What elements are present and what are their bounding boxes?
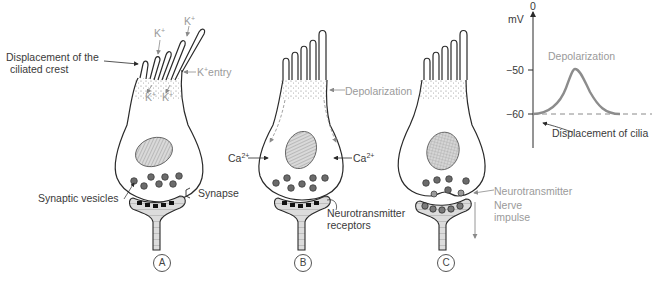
label-receptors-line2: receptors	[327, 219, 371, 231]
label-neurotransmitter: Neurotransmitter	[494, 185, 572, 197]
hair-cell-diagram	[0, 0, 660, 283]
label-k-entry: K+entry	[197, 66, 231, 78]
panel-a-hair-cell	[104, 26, 205, 250]
label-k-inside-1: K+	[145, 91, 156, 103]
panel-marker-a: A	[153, 254, 171, 272]
label-synapse: Synapse	[198, 187, 239, 199]
label-displacement-crest-line1: Displacement of the	[6, 51, 99, 63]
depolarization-curve	[533, 69, 620, 114]
label-ca-right: Ca2+	[353, 152, 374, 164]
panel-marker-c: C	[437, 254, 455, 272]
panel-marker-b: B	[294, 254, 312, 272]
graph-annotation-displacement: Displacement of cilia	[552, 127, 648, 139]
label-displacement-crest-line2: ciliated crest	[10, 63, 68, 75]
label-k-inside-2: K+	[162, 91, 173, 103]
graph-tick-minus60: −60	[506, 108, 524, 120]
label-nerve-line1: Nerve	[494, 199, 522, 211]
graph-curve-label: Depolarization	[548, 50, 615, 62]
label-k-plus-1: K+	[154, 27, 165, 39]
label-nerve-line2: impulse	[494, 211, 530, 223]
graph-y-unit: mV	[508, 13, 524, 25]
panel-c-hair-cell	[398, 31, 494, 251]
graph-y-top-tick: 0	[530, 0, 536, 12]
graph-tick-minus50: −50	[506, 64, 524, 76]
label-synaptic-vesicles: Synaptic vesicles	[38, 192, 119, 204]
label-depolarization: Depolarization	[345, 85, 412, 97]
label-k-plus-2: K+	[184, 15, 195, 27]
label-ca-left: Ca2+	[228, 152, 249, 164]
label-receptors-line1: Neurotransmitter	[327, 207, 405, 219]
